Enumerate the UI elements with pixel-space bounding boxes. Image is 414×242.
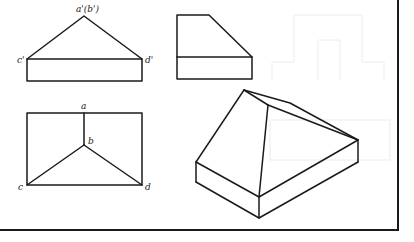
- label-d-prime: d': [145, 55, 153, 65]
- iso-left-roof-edge: [196, 90, 244, 162]
- front-view-roof: [27, 16, 142, 59]
- iso-ridge-front: [244, 90, 268, 105]
- front-view-base: [27, 59, 142, 81]
- top-view: a b c d: [18, 101, 151, 192]
- iso-hip-front: [259, 105, 268, 197]
- iso-ridge-back: [244, 90, 358, 140]
- label-a: a: [81, 101, 86, 111]
- label-b: b: [88, 136, 94, 146]
- drawing-svg: a'(b') c' d' a b c d: [0, 0, 414, 242]
- label-d: d: [145, 182, 151, 192]
- label-c-prime: c': [17, 55, 25, 65]
- iso-base-bottom: [196, 162, 358, 218]
- top-view-hip-bc: [27, 145, 84, 185]
- side-view-base: [177, 57, 252, 79]
- isometric-view: [196, 90, 358, 218]
- label-a-prime-b-prime: a'(b'): [76, 4, 100, 14]
- iso-base-top: [196, 140, 358, 197]
- background-ghost-lines: [270, 15, 390, 160]
- label-c: c: [18, 182, 23, 192]
- technical-drawing: a'(b') c' d' a b c d: [0, 0, 414, 242]
- front-view: a'(b') c' d': [17, 4, 153, 81]
- top-view-hip-bd: [84, 145, 142, 185]
- iso-hip-right: [268, 105, 358, 140]
- side-view: [177, 15, 252, 79]
- side-view-roof: [177, 15, 252, 57]
